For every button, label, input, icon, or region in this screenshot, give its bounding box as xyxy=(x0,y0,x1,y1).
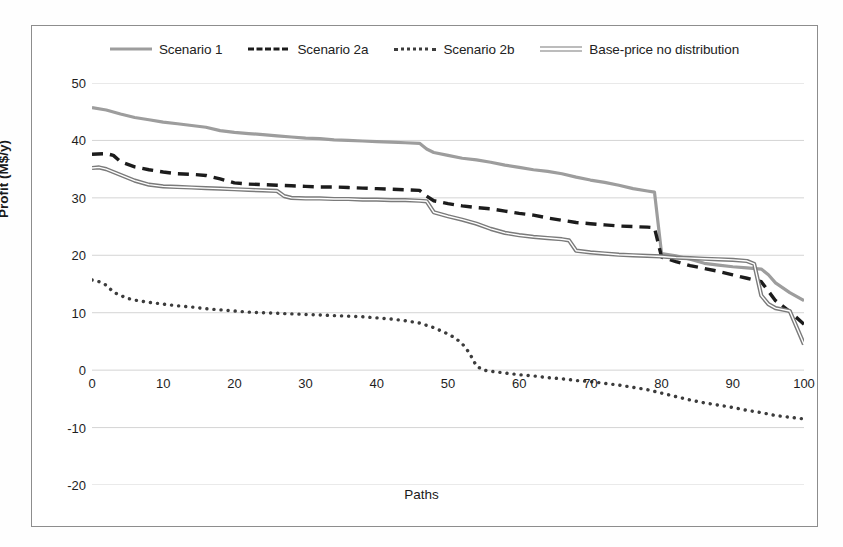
plot-area xyxy=(92,83,804,485)
series-line-scenario-2a xyxy=(92,154,804,325)
x-tick-label: 70 xyxy=(583,376,597,391)
y-tick-label: 10 xyxy=(46,305,86,320)
y-axis-tick-labels: 50403020100-10-20 xyxy=(40,83,86,485)
legend-item-scenario-1[interactable]: Scenario 1 xyxy=(110,42,223,57)
y-tick-label: 50 xyxy=(46,76,86,91)
x-tick-label: 100 xyxy=(793,376,815,391)
chart-svg xyxy=(92,83,804,485)
solid-gray-line-swatch-icon xyxy=(110,43,152,55)
legend-label: Scenario 1 xyxy=(159,42,223,57)
dashed-black-line-swatch-icon xyxy=(248,43,290,55)
x-axis-tick-labels: 0102030405060708090100 xyxy=(92,376,804,400)
y-tick-label: 0 xyxy=(46,363,86,378)
y-tick-label: 20 xyxy=(46,248,86,263)
x-tick-label: 20 xyxy=(227,376,241,391)
x-tick-label: 30 xyxy=(298,376,312,391)
y-tick-label: 40 xyxy=(46,133,86,148)
x-tick-label: 0 xyxy=(88,376,95,391)
series-line-base-price-no-distribution xyxy=(92,167,804,344)
legend-label: Base-price no distribution xyxy=(589,42,739,57)
legend-label: Scenario 2b xyxy=(443,42,514,57)
x-tick-label: 80 xyxy=(654,376,668,391)
double-gray-line-swatch-icon xyxy=(540,43,582,55)
legend-item-scenario-2a[interactable]: Scenario 2a xyxy=(248,42,368,57)
x-tick-label: 10 xyxy=(156,376,170,391)
legend-label: Scenario 2a xyxy=(297,42,368,57)
y-axis-title: Profit (M$/y) xyxy=(0,140,11,218)
chart-figure: Scenario 1 Scenario 2a Scenario 2b Base-… xyxy=(0,0,843,547)
chart-legend: Scenario 1 Scenario 2a Scenario 2b Base-… xyxy=(31,36,818,62)
x-axis-title: Paths xyxy=(0,487,843,502)
dotted-gray-line-swatch-icon xyxy=(394,43,436,55)
legend-item-base-price[interactable]: Base-price no distribution xyxy=(540,42,739,57)
x-tick-label: 90 xyxy=(726,376,740,391)
y-tick-label: -10 xyxy=(46,420,86,435)
x-tick-label: 40 xyxy=(370,376,384,391)
x-tick-label: 60 xyxy=(512,376,526,391)
legend-item-scenario-2b[interactable]: Scenario 2b xyxy=(394,42,514,57)
y-tick-label: 30 xyxy=(46,190,86,205)
series-line-base-price-no-distribution-inner xyxy=(92,167,804,344)
x-tick-label: 50 xyxy=(441,376,455,391)
